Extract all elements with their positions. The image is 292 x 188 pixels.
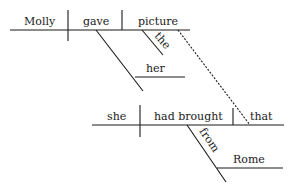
word-picture: picture (138, 15, 178, 28)
word-her: her (146, 62, 166, 75)
word-had-brought: had brought (154, 110, 223, 123)
indirect-object-slant (96, 30, 143, 91)
word-rome: Rome (233, 153, 265, 166)
word-from: from (197, 125, 223, 155)
word-the: the (152, 30, 174, 52)
word-that: that (250, 110, 273, 123)
sentence-diagram: Molly gave picture the her she had broug… (0, 0, 292, 188)
word-she: she (107, 110, 126, 123)
word-gave: gave (83, 15, 109, 28)
word-molly: Molly (24, 15, 56, 28)
